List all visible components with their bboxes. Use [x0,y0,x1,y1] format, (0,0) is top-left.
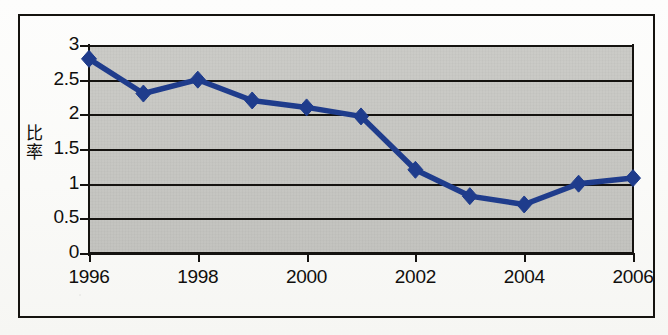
y-tick-mark [80,80,89,82]
y-tick-mark [80,149,89,151]
y-tick-label: 0 [19,241,79,263]
gridline-y [89,218,633,220]
x-tick-mark [198,253,200,262]
x-tick-label: 2002 [370,266,460,288]
y-tick-label: 2.5 [19,68,79,90]
gridline-y [89,149,633,151]
scanned-page: 比率 00.511.522.53 19961998200020022004200… [0,0,668,335]
plot-area [89,45,633,253]
x-tick-label: 1998 [153,266,243,288]
x-tick-mark [524,253,526,262]
y-tick-label: 1 [19,172,79,194]
x-tick-mark [415,253,417,262]
gridline-y [89,184,633,186]
y-tick-label: 0.5 [19,206,79,228]
x-tick-mark [89,253,91,262]
gridline-y [89,114,633,116]
x-tick-mark [307,253,309,262]
x-axis-spine [88,252,634,254]
plot-right-edge [632,44,634,254]
gridline-y [89,45,633,47]
y-tick-mark [80,45,89,47]
x-tick-label: 1996 [44,266,134,288]
y-tick-label: 3 [19,33,79,55]
y-tick-label: 2 [19,102,79,124]
x-tick-mark [633,253,635,262]
x-tick-label: 2004 [479,266,569,288]
gridline-y [89,80,633,82]
x-tick-label: 2000 [262,266,352,288]
y-tick-mark [80,253,89,255]
y-tick-mark [80,114,89,116]
y-tick-mark [80,184,89,186]
y-tick-label: 1.5 [19,137,79,159]
y-tick-mark [80,218,89,220]
x-tick-label: 2006 [588,266,668,288]
